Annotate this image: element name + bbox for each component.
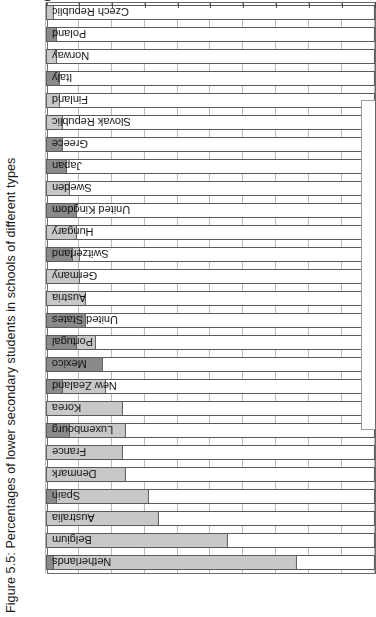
stacked-bar [46,357,375,372]
stacked-bar [46,27,375,42]
category-label: France [50,441,86,463]
axis-tick-label: 80 [104,0,122,11]
category-label: Australia [50,507,95,529]
stacked-bar-chart: NetherlandsBelgiumAustraliaSpainDenmarkF… [18,0,376,617]
bar-row: Greece [48,133,375,155]
bar-row: Norway [48,45,375,67]
axis-tick-label: 20 [301,0,319,11]
bar-row: Austria [48,287,375,309]
stacked-bar [46,71,375,86]
axis-tick-label: 40 [235,0,253,11]
bar-row: Poland [48,23,375,45]
stacked-bar [46,159,375,174]
bar-segment-public [85,291,375,306]
bar-segment-public [122,445,375,460]
axis-tick-label: 0 [367,0,376,11]
bar-segment-public [227,533,375,548]
bar-row: United States [48,309,375,331]
bar-rows: NetherlandsBelgiumAustraliaSpainDenmarkF… [48,3,375,573]
bar-row: Sweden [48,177,375,199]
chart-plate: NetherlandsBelgiumAustraliaSpainDenmarkF… [18,0,376,617]
bar-segment-public [296,555,375,570]
category-label: Switzerland [50,243,109,265]
axis-tick-label: 60 [170,0,188,11]
bar-segment-public [56,49,375,64]
bar-row: Australia [48,507,375,529]
bar-row: Italy [48,67,375,89]
category-label: Norway [50,45,89,67]
bar-segment-public [102,357,375,372]
bar-row: Netherlands [48,551,375,573]
bar-row: France [48,441,375,463]
stacked-bar [46,511,375,526]
bar-segment-public [158,511,375,526]
category-label: Korea [50,397,81,419]
bar-row: New Zealand [48,375,375,397]
category-label: Belgium [50,529,92,551]
stacked-bar [46,181,375,196]
category-label: Netherlands [50,551,111,573]
bar-segment-public [125,423,375,438]
bar-row: Luxembourg [48,419,375,441]
category-label: Germany [50,265,97,287]
category-label: Austria [50,287,86,309]
bar-segment-public [69,181,375,196]
bar-row: Germany [48,265,375,287]
bar-segment-public [85,313,375,328]
category-label: Italy [50,67,72,89]
bar-segment-public [59,71,375,86]
axis-tick-label: 70 [137,0,155,11]
bar-row: United Kingdom [48,199,375,221]
bar-segment-public [56,27,375,42]
category-label: Hungary [50,221,94,243]
bar-segment-public [66,159,375,174]
category-label: Luxembourg [50,419,113,441]
plot-area: NetherlandsBelgiumAustraliaSpainDenmarkF… [47,2,376,574]
bar-segment-public [95,335,375,350]
axis-tick-label: 10 [334,0,352,11]
stacked-bar [46,291,375,306]
stacked-bar [46,401,375,416]
stacked-bar [46,225,375,240]
category-label: Greece [50,133,88,155]
bar-row: Korea [48,397,375,419]
stacked-bar [46,49,375,64]
bar-segment-public [62,137,375,152]
bar-row: Denmark [48,463,375,485]
category-label: Finland [50,89,88,111]
stacked-bar [46,533,375,548]
axis-tick-label: 90 [71,0,89,11]
stacked-bar [46,489,375,504]
bar-segment-public [79,269,375,284]
bar-row: Switzerland [48,243,375,265]
bar-segment-public [148,489,375,504]
category-label: Denmark [50,463,97,485]
bar-row: Mexico [48,353,375,375]
axis-tick-label: 100 [38,0,56,11]
category-label: Poland [50,23,86,45]
category-label: Portugal [50,331,93,353]
category-label: Sweden [50,177,92,199]
bar-row: Hungary [48,221,375,243]
category-label: Japan [50,155,82,177]
bar-segment-public [105,379,375,394]
legend-box-fragment [361,100,375,430]
bar-row: Portugal [48,331,375,353]
category-label: New Zealand [50,375,117,397]
stacked-bar [46,93,375,108]
category-label: Spain [50,485,80,507]
bar-segment-public [59,93,375,108]
bar-segment-public [79,247,375,262]
gridline [45,3,46,573]
bar-row: Japan [48,155,375,177]
category-label: United Kingdom [50,199,130,221]
category-label: Mexico [50,353,87,375]
category-label: United States [50,309,118,331]
stacked-bar [46,137,375,152]
stacked-bar [46,335,375,350]
bar-segment-public [76,225,375,240]
bar-segment-public [122,401,375,416]
category-label: Slovak Republic [50,111,131,133]
bar-row: Slovak Republic [48,111,375,133]
stacked-bar [46,445,375,460]
